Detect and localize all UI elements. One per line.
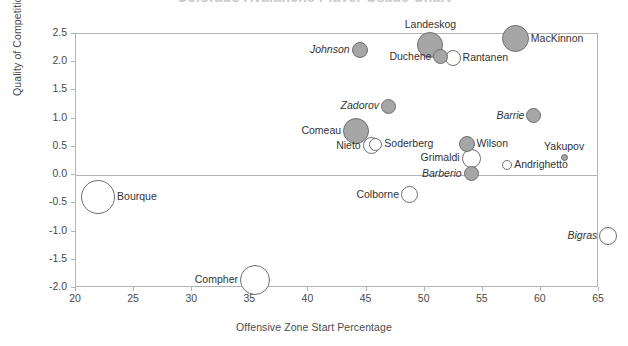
y-tick-mark [71,174,75,175]
x-tick-mark [598,287,599,291]
y-tick-mark [71,146,75,147]
y-tick-label: 0.0 [27,168,67,178]
point-label: Nieto [241,140,361,151]
point-label: Rantanen [463,52,509,63]
x-axis-label: Offensive Zone Start Percentage [0,321,628,333]
x-tick-label: 30 [171,293,211,304]
data-bubble [381,99,396,114]
y-tick-mark [71,33,75,34]
point-label: Compher [118,274,238,285]
point-label: Andrighetto [514,159,568,170]
data-bubble [526,108,541,123]
zero-reference-line [76,175,597,176]
data-bubble [502,160,512,170]
x-tick-mark [540,287,541,291]
x-tick-label: 40 [287,293,327,304]
x-tick-label: 20 [55,293,95,304]
data-bubble [599,227,617,245]
data-bubble [464,166,479,181]
data-bubble [462,149,481,168]
point-label: Zadorov [259,100,379,111]
y-tick-label: -1.0 [27,225,67,235]
x-tick-label: 65 [578,293,618,304]
player-usage-chart: Colorado Avalanche Player Usage Chart Qu… [0,0,628,346]
y-tick-mark [71,118,75,119]
data-bubble [369,138,382,151]
x-tick-mark [424,287,425,291]
y-tick-label: 2.0 [27,55,67,65]
x-tick-label: 50 [404,293,444,304]
x-tick-mark [482,287,483,291]
x-tick-mark [307,287,308,291]
y-tick-mark [71,89,75,90]
point-label: Soderberg [384,138,433,149]
x-tick-mark [75,287,76,291]
x-tick-mark [191,287,192,291]
y-tick-label: 2.5 [27,27,67,37]
y-axis-label: Quality of Competition [11,0,23,96]
y-tick-label: -0.5 [27,196,67,206]
point-label: Duchene [311,51,431,62]
y-axis-label-wrap: Quality of Competition [0,0,30,300]
data-bubble [502,25,529,52]
chart-title: Colorado Avalanche Player Usage Chart [0,0,628,2]
y-tick-label: -1.5 [27,253,67,263]
data-bubble [81,180,115,214]
plot-area: JohnsonLandeskogDucheneRantanenMacKinnon… [75,33,598,287]
y-tick-mark [71,202,75,203]
point-label: Barberio [342,168,462,179]
point-label: Barrie [404,110,524,121]
point-label: Landeskog [370,19,490,30]
point-label: Grimaldi [340,152,460,163]
x-tick-label: 45 [346,293,386,304]
x-tick-label: 55 [462,293,502,304]
point-label: Bourque [117,191,157,202]
x-tick-mark [133,287,134,291]
y-tick-label: 1.5 [27,83,67,93]
y-tick-mark [71,231,75,232]
point-label: Yakupov [504,141,624,152]
y-tick-label: 0.5 [27,140,67,150]
x-tick-label: 60 [520,293,560,304]
y-tick-label: 1.0 [27,112,67,122]
y-tick-mark [71,259,75,260]
data-bubble [240,265,270,295]
point-label: Bigras [477,230,597,241]
y-tick-label: -2.0 [27,281,67,291]
x-tick-label: 35 [229,293,269,304]
data-bubble [401,186,418,203]
x-tick-label: 25 [113,293,153,304]
point-label: Colborne [279,189,399,200]
x-tick-mark [366,287,367,291]
data-bubble [459,136,475,152]
point-label: Comeau [221,125,341,136]
point-label: MacKinnon [531,33,584,44]
y-tick-mark [71,61,75,62]
